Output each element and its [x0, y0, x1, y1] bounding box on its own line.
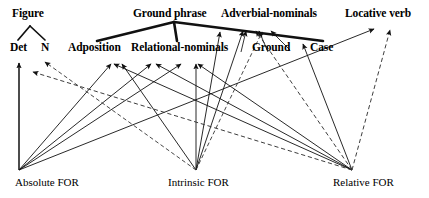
- node-label-intrinsic-for[interactable]: Intrinsic FOR: [168, 177, 229, 188]
- node-label-ground-phrase[interactable]: Ground phrase: [133, 8, 207, 20]
- node-label-relational-nominals[interactable]: Relational-nominals: [131, 42, 228, 54]
- relative-for-edges: [114, 44, 352, 170]
- node-label-absolute-for[interactable]: Absolute FOR: [15, 177, 79, 188]
- node-label-ground[interactable]: Ground: [252, 42, 290, 54]
- node-label-figure[interactable]: Figure: [12, 8, 44, 20]
- edge-layer: [0, 0, 429, 198]
- node-label-relative-for[interactable]: Relative FOR: [333, 177, 394, 188]
- ground-phrase-tree: [97, 22, 323, 41]
- node-label-adposition[interactable]: Adposition: [68, 42, 121, 54]
- node-label-locative-verb[interactable]: Locative verb: [345, 8, 411, 20]
- node-label-det[interactable]: Det: [10, 42, 27, 54]
- node-label-adverbial-nominals[interactable]: Adverbial-nominals: [221, 8, 317, 20]
- figure-tree: [18, 26, 45, 40]
- node-label-case[interactable]: Case: [310, 42, 333, 54]
- node-label-n[interactable]: N: [41, 42, 49, 54]
- diagram-canvas: Figure Ground phrase Adverbial-nominals …: [0, 0, 429, 198]
